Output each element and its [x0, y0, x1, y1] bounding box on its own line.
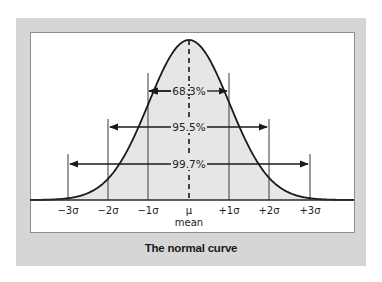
label-68-3-percent: 68.3%: [172, 85, 205, 97]
tick-minus1-sigma: −1σ: [137, 205, 159, 216]
x-axis-ticks: −3σ −2σ −1σ μ +1σ +2σ +3σ mean: [57, 205, 321, 228]
tick-minus2-sigma: −2σ: [97, 205, 119, 216]
figure-caption: The normal curve: [16, 242, 366, 254]
label-95-5-percent: 95.5%: [172, 121, 205, 133]
normal-curve-chart: 68.3% 95.5% 99.7% −3σ −2σ −1σ μ +1σ +2σ …: [0, 0, 382, 282]
label-99-7-percent: 99.7%: [172, 158, 205, 170]
tick-plus1-sigma: +1σ: [218, 205, 240, 216]
tick-plus3-sigma: +3σ: [299, 205, 321, 216]
tick-minus3-sigma: −3σ: [57, 205, 79, 216]
tick-mu: μ: [186, 205, 193, 216]
x-axis-mean-label: mean: [175, 217, 203, 228]
tick-plus2-sigma: +2σ: [258, 205, 280, 216]
